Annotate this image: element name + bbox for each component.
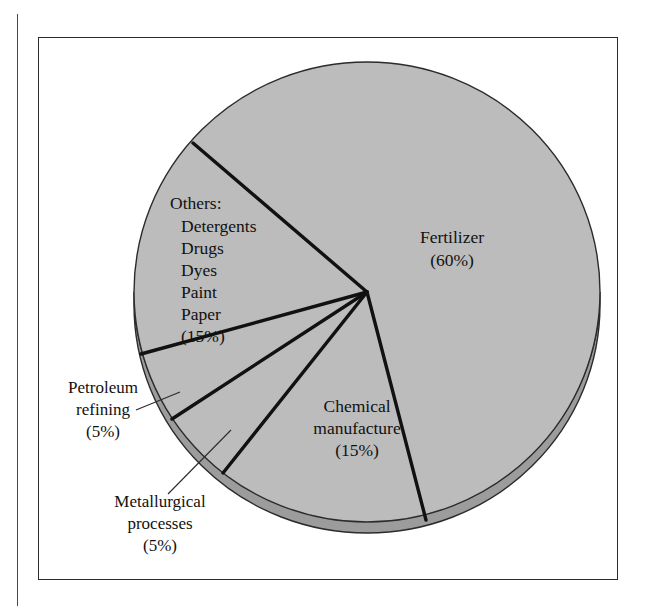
label-petroleum-refining: Petroleum refining (5%) — [68, 378, 138, 441]
figure-page: Fertilizer (60%) Chemical manufacture (1… — [0, 0, 660, 613]
label-others-item-paint: Paint — [181, 282, 217, 302]
label-chemical-line3: (15%) — [335, 440, 379, 460]
label-petroleum-line3: (5%) — [86, 422, 120, 441]
label-chemical-line2: manufacture — [313, 418, 401, 438]
label-petroleum-line2: refining — [76, 400, 130, 419]
label-others-item-drugs: Drugs — [181, 238, 224, 258]
label-others-item-dyes: Dyes — [181, 260, 217, 280]
label-metallurgical-processes: Metallurgical processes (5%) — [114, 492, 206, 555]
label-metallurgical-line3: (5%) — [143, 536, 177, 555]
label-others-item-detergents: Detergents — [181, 216, 257, 236]
label-fertilizer-line1: Fertilizer — [420, 227, 484, 247]
label-fertilizer-line2: (60%) — [430, 250, 474, 270]
label-metallurgical-line1: Metallurgical — [114, 492, 206, 511]
label-chemical-line1: Chemical — [323, 396, 390, 416]
pie-chart: Fertilizer (60%) Chemical manufacture (1… — [0, 0, 660, 613]
label-metallurgical-line2: processes — [127, 514, 192, 533]
label-others-percent: (15%) — [181, 326, 225, 346]
label-others-item-paper: Paper — [181, 304, 221, 324]
label-petroleum-line1: Petroleum — [68, 378, 138, 397]
label-others-header: Others: — [170, 193, 222, 213]
